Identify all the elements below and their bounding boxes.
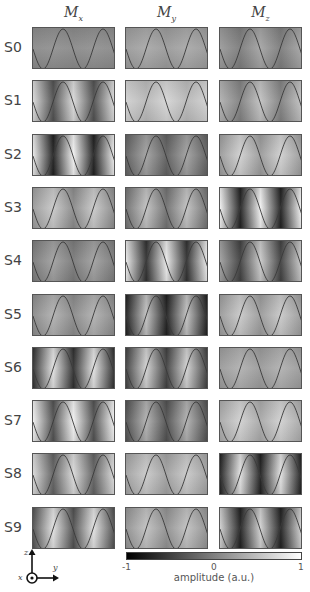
mode-panel-s5-mx [32,294,115,336]
colorbar [126,552,302,560]
mode-panel-s7-my [125,400,208,442]
sine-wave-overlay [33,348,115,389]
sine-wave-overlay [33,241,115,282]
sine-wave-overlay [220,348,302,389]
sine-wave-overlay [220,28,302,69]
column-header-my: My [125,4,208,23]
mode-panel-s3-mx [32,187,115,229]
sine-wave-overlay [33,454,115,495]
sine-wave-overlay [126,28,208,69]
mode-panel-s2-my [125,134,208,176]
sine-wave-overlay [126,81,208,122]
sine-wave-overlay [220,508,302,549]
mode-panel-s7-mx [32,400,115,442]
colorbar-title: amplitude (a.u.) [126,572,302,583]
mode-panel-s1-mz [219,80,302,122]
colorbar-min-label: -1 [122,562,131,572]
axis-label-y: y [53,563,58,572]
sine-wave-overlay [33,28,115,69]
mode-panel-s4-mz [219,240,302,282]
mode-panel-s2-mx [32,134,115,176]
column-header-mx: Mx [32,4,115,23]
sine-wave-overlay [33,81,115,122]
column-header-mz: Mz [219,4,302,23]
coordinate-axes-icon [0,540,80,592]
row-label-s7: S7 [4,412,28,428]
mode-panel-s8-mz [219,453,302,495]
mode-panel-s0-my [125,27,208,69]
colorbar-max-label: 1 [298,562,304,572]
mode-panel-s5-mz [219,294,302,336]
mode-panel-s0-mz [219,27,302,69]
sine-wave-overlay [126,508,208,549]
sine-wave-overlay [126,295,208,336]
row-label-s3: S3 [4,199,28,215]
mode-panel-s1-my [125,80,208,122]
sine-wave-overlay [126,241,208,282]
sine-wave-overlay [220,135,302,176]
row-label-s6: S6 [4,359,28,375]
sine-wave-overlay [220,295,302,336]
mode-panel-s2-mz [219,134,302,176]
row-label-s4: S4 [4,252,28,268]
sine-wave-overlay [33,401,115,442]
mode-panel-s4-mx [32,240,115,282]
mode-panel-s4-my [125,240,208,282]
row-label-s9: S9 [4,519,28,535]
row-label-s5: S5 [4,306,28,322]
mode-panel-s8-mx [32,453,115,495]
mode-panel-s6-mz [219,347,302,389]
mode-panel-s9-my [125,507,208,549]
row-label-s8: S8 [4,465,28,481]
row-label-s1: S1 [4,92,28,108]
mode-panel-s8-my [125,453,208,495]
sine-wave-overlay [126,188,208,229]
sine-wave-overlay [33,188,115,229]
mode-panel-s6-mx [32,347,115,389]
sine-wave-overlay [33,295,115,336]
axis-label-z: z [24,548,28,557]
sine-wave-overlay [220,401,302,442]
sine-wave-overlay [126,135,208,176]
sine-wave-overlay [220,454,302,495]
row-label-s2: S2 [4,146,28,162]
mode-panel-s6-my [125,347,208,389]
mode-panel-s7-mz [219,400,302,442]
mode-panel-s1-mx [32,80,115,122]
sine-wave-overlay [220,241,302,282]
sine-wave-overlay [33,135,115,176]
colorbar-mid-label: 0 [211,562,217,572]
row-label-s0: S0 [4,39,28,55]
mode-panel-s3-mz [219,187,302,229]
axis-label-x: x [18,573,23,582]
mode-panel-s9-mz [219,507,302,549]
mode-panel-s5-my [125,294,208,336]
sine-wave-overlay [220,188,302,229]
sine-wave-overlay [220,81,302,122]
mode-panel-s0-mx [32,27,115,69]
mode-panel-s3-my [125,187,208,229]
sine-wave-overlay [126,401,208,442]
sine-wave-overlay [126,348,208,389]
sine-wave-overlay [126,454,208,495]
